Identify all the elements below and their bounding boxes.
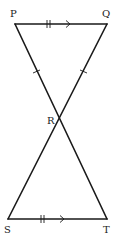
label-r: R <box>47 115 55 126</box>
geometry-diagram: P Q R S T <box>0 0 118 238</box>
label-s: S <box>4 224 11 235</box>
segment-pt <box>15 24 107 219</box>
label-t: T <box>103 224 110 235</box>
label-p: P <box>10 8 17 19</box>
label-q: Q <box>102 8 110 19</box>
segment-qs <box>8 24 107 219</box>
